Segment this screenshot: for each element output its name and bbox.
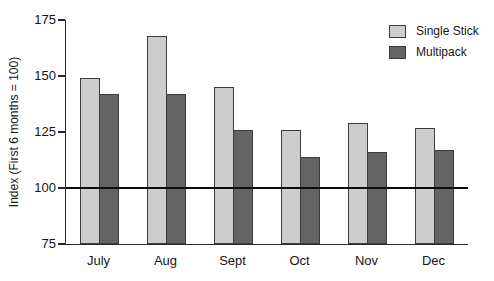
- x-tick-label-aug: Aug: [154, 253, 177, 268]
- bar-july-single-stick: [80, 78, 100, 244]
- x-tick-label-july: July: [87, 253, 110, 268]
- bar-dec-multipack: [434, 150, 454, 244]
- y-tick-label-125: 125: [16, 125, 56, 139]
- y-tick-label-150: 150: [16, 69, 56, 83]
- y-tick-mark-100: [58, 187, 65, 189]
- y-tick-mark-75: [58, 243, 65, 245]
- bar-nov-multipack: [367, 152, 387, 244]
- x-tick-label-dec: Dec: [422, 253, 445, 268]
- reference-line-100: [66, 187, 468, 189]
- bar-aug-multipack: [166, 94, 186, 244]
- y-tick-mark-175: [58, 19, 65, 21]
- legend-item-multipack: Multipack: [389, 45, 479, 59]
- legend-swatch-single-stick: [389, 25, 406, 38]
- x-tick-label-sept: Sept: [219, 253, 246, 268]
- y-tick-mark-150: [58, 75, 65, 77]
- y-tick-mark-125: [58, 131, 65, 133]
- bar-aug-single-stick: [147, 36, 167, 244]
- legend-item-single-stick: Single Stick: [389, 24, 479, 38]
- bar-oct-multipack: [300, 157, 320, 244]
- x-tick-label-oct: Oct: [289, 253, 309, 268]
- y-tick-label-100: 100: [16, 181, 56, 195]
- bar-chart: Index (First 6 months = 100) Single Stic…: [0, 0, 494, 281]
- legend: Single Stick Multipack: [389, 24, 479, 66]
- x-tick-label-nov: Nov: [355, 253, 378, 268]
- legend-label-single-stick: Single Stick: [416, 24, 479, 38]
- y-tick-label-75: 75: [16, 237, 56, 251]
- legend-swatch-multipack: [389, 46, 406, 59]
- y-tick-label-175: 175: [16, 13, 56, 27]
- bar-sept-single-stick: [214, 87, 234, 244]
- bar-july-multipack: [99, 94, 119, 244]
- bar-nov-single-stick: [348, 123, 368, 244]
- legend-label-multipack: Multipack: [416, 45, 467, 59]
- bar-dec-single-stick: [415, 128, 435, 244]
